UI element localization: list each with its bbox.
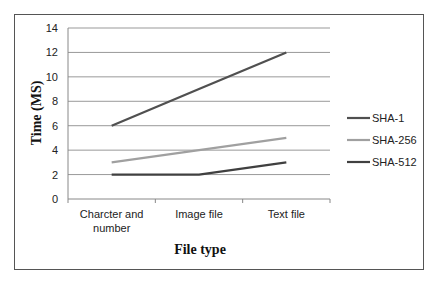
line-chart: 02468101214Charcter andnumberImage fileT… <box>0 0 434 281</box>
y-tick-label: 4 <box>52 144 58 156</box>
y-tick-label: 2 <box>52 169 58 181</box>
y-tick-label: 6 <box>52 120 58 132</box>
y-tick-label: 0 <box>52 193 58 205</box>
x-tick-label: Charcter and <box>80 208 144 220</box>
y-tick-label: 10 <box>46 71 58 83</box>
y-tick-label: 12 <box>46 46 58 58</box>
x-tick-label: number <box>93 222 131 234</box>
y-tick-label: 8 <box>52 95 58 107</box>
legend-label: SHA-1 <box>372 112 404 124</box>
series-line-sha-512 <box>112 162 287 174</box>
y-tick-label: 14 <box>46 22 58 34</box>
x-tick-label: Text file <box>268 208 305 220</box>
legend-label: SHA-256 <box>372 134 417 146</box>
x-tick-label: Image file <box>175 208 223 220</box>
series-line-sha-1 <box>112 52 287 125</box>
y-axis-title: Time (MS) <box>29 80 45 145</box>
x-axis-title: File type <box>174 242 226 257</box>
legend-label: SHA-512 <box>372 156 417 168</box>
